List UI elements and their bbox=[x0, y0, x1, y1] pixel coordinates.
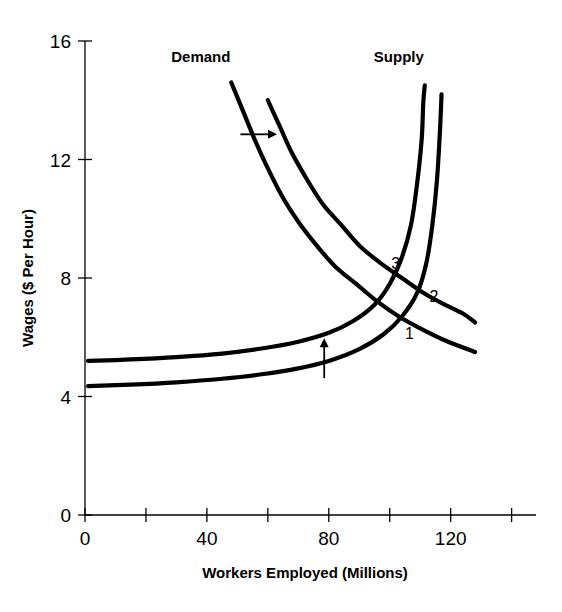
x-axis-tick-labels: 04080120 bbox=[80, 528, 467, 549]
x-tick-label-120: 120 bbox=[435, 528, 467, 549]
annotation-arrow-up-head bbox=[320, 338, 329, 347]
x-axis-title: Workers Employed (Millions) bbox=[202, 564, 408, 581]
y-tick-label-8: 8 bbox=[60, 268, 71, 289]
curve-name-labels: DemandSupply bbox=[171, 48, 424, 65]
y-axis-tick-labels: 0481216 bbox=[50, 31, 72, 526]
point-label-1: 1 bbox=[405, 325, 414, 342]
y-tick-label-12: 12 bbox=[50, 150, 71, 171]
y-tick-label-0: 0 bbox=[60, 505, 71, 526]
x-tick-label-40: 40 bbox=[196, 528, 217, 549]
curve-supply-shifted bbox=[88, 85, 425, 361]
curve-demand-shifted bbox=[268, 100, 475, 322]
x-axis: 04080120 Workers Employed (Millions) bbox=[80, 508, 536, 581]
x-tick-label-80: 80 bbox=[318, 528, 339, 549]
curve-supply-original bbox=[88, 94, 441, 386]
y-tick-label-4: 4 bbox=[60, 387, 71, 408]
point-label-2: 2 bbox=[429, 288, 438, 305]
economics-supply-demand-chart: 0481216 Wages ($ Per Hour) 04080120 Work… bbox=[0, 0, 562, 612]
y-axis: 0481216 Wages ($ Per Hour) bbox=[19, 31, 92, 526]
curve-group bbox=[88, 82, 475, 386]
x-tick-label-0: 0 bbox=[80, 528, 91, 549]
chart-canvas: 0481216 Wages ($ Per Hour) 04080120 Work… bbox=[0, 0, 562, 612]
y-axis-title: Wages ($ Per Hour) bbox=[19, 209, 36, 347]
annotation-arrow-right-head bbox=[268, 130, 277, 139]
curve-label-supply: Supply bbox=[374, 48, 425, 65]
y-tick-label-16: 16 bbox=[50, 31, 71, 52]
point-label-3: 3 bbox=[391, 255, 400, 272]
curve-label-demand: Demand bbox=[171, 48, 230, 65]
annotation-group bbox=[240, 130, 328, 378]
